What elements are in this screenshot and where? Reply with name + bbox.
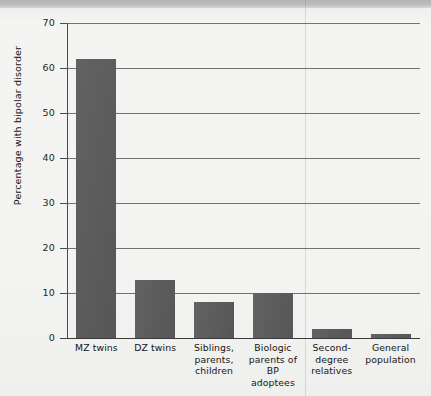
bar-chart: Percentage with bipolar disorder 0102030… — [0, 0, 431, 396]
gridline-30 — [67, 203, 420, 204]
y-tick-mark-30 — [60, 203, 67, 204]
x-axis-label-line: MZ twins — [67, 342, 126, 354]
y-tick-label-70: 70 — [29, 18, 55, 28]
x-axis-label-line: General — [361, 342, 420, 354]
gridline-70 — [67, 23, 420, 24]
gridline-10 — [67, 293, 420, 294]
x-axis-label-line: children — [185, 365, 244, 377]
y-tick-label-40: 40 — [29, 153, 55, 163]
x-axis-label-5: Generalpopulation — [361, 342, 420, 365]
x-axis-label-1: DZ twins — [126, 342, 185, 354]
gridline-50 — [67, 113, 420, 114]
y-tick-label-50: 50 — [29, 108, 55, 118]
y-tick-mark-40 — [60, 158, 67, 159]
y-tick-label-30: 30 — [29, 198, 55, 208]
x-axis-label-line: Siblings, — [185, 342, 244, 354]
x-axis-label-line: degree — [302, 354, 361, 366]
x-axis-label-line: relatives — [302, 365, 361, 377]
gridline-0 — [67, 338, 420, 339]
x-axis-label-line: DZ twins — [126, 342, 185, 354]
gridline-40 — [67, 158, 420, 159]
x-axis-label-3: Biologicparents ofBP adoptees — [244, 342, 303, 388]
x-axis-label-line: Second- — [302, 342, 361, 354]
gridline-20 — [67, 248, 420, 249]
gridline-60 — [67, 68, 420, 69]
x-axis-label-line: parents, — [185, 354, 244, 366]
y-tick-label-10: 10 — [29, 288, 55, 298]
y-tick-mark-10 — [60, 293, 67, 294]
y-tick-label-60: 60 — [29, 63, 55, 73]
bar-2 — [194, 302, 234, 338]
x-axis-label-line: Biologic — [244, 342, 303, 354]
y-tick-label-0: 0 — [29, 333, 55, 343]
x-axis-label-line: parents of — [244, 354, 303, 366]
y-tick-mark-70 — [60, 23, 67, 24]
x-axis-label-2: Siblings,parents,children — [185, 342, 244, 377]
bar-4 — [312, 329, 352, 338]
x-axis-label-line: population — [361, 354, 420, 366]
x-axis-label-0: MZ twins — [67, 342, 126, 354]
y-tick-label-20: 20 — [29, 243, 55, 253]
y-axis-title: Percentage with bipolar disorder — [12, 31, 23, 221]
bar-0 — [76, 59, 116, 338]
bar-3 — [253, 293, 293, 338]
bar-5 — [371, 334, 411, 339]
x-axis-label-4: Second-degreerelatives — [302, 342, 361, 377]
y-tick-mark-0 — [60, 338, 67, 339]
y-tick-mark-20 — [60, 248, 67, 249]
y-tick-mark-60 — [60, 68, 67, 69]
x-axis-label-line: BP adoptees — [244, 365, 303, 388]
plot-area: 010203040506070 — [67, 23, 420, 338]
bar-1 — [135, 280, 175, 339]
y-tick-mark-50 — [60, 113, 67, 114]
